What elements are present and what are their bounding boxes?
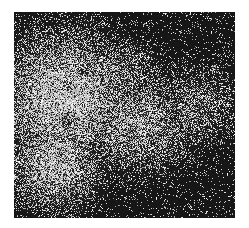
micrograph-canvas	[14, 12, 235, 218]
micrograph-image	[14, 12, 235, 218]
